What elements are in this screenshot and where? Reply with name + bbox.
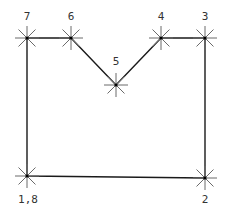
vertex-dot <box>25 36 28 39</box>
vertex-dot <box>69 36 72 39</box>
vertex-dot <box>114 83 117 86</box>
vertex-label: 5 <box>113 55 120 68</box>
vertex-label: 2 <box>202 193 209 206</box>
vertex-label: 1,8 <box>18 193 38 206</box>
vertex-dot <box>25 174 28 177</box>
vertex-star-marker-icon <box>15 164 39 188</box>
vertex-label: 3 <box>202 10 209 23</box>
vertex-label: 7 <box>24 10 31 23</box>
vertex-star-marker-icon <box>104 73 128 97</box>
vertex-dot <box>203 36 206 39</box>
vertex-star-marker-icon <box>193 26 217 50</box>
vertex-dot <box>203 176 206 179</box>
vertex-label: 4 <box>158 10 165 23</box>
vertex-star-marker-icon <box>149 26 173 50</box>
polygon-diagram: 1,8234567 <box>0 0 225 212</box>
polygon-vertices <box>15 26 217 190</box>
vertex-star-marker-icon <box>59 26 83 50</box>
vertex-dot <box>159 36 162 39</box>
vertex-star-marker-icon <box>15 26 39 50</box>
vertex-star-marker-icon <box>193 166 217 190</box>
vertex-label: 6 <box>68 10 75 23</box>
